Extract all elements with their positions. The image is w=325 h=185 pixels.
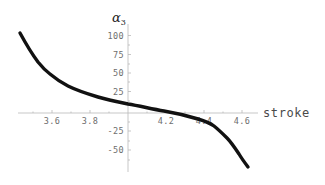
y-axis-symbol: α (112, 10, 121, 25)
x-tick-label-3-6: 3.6 (44, 116, 61, 126)
y-tick-label-75: 75 (113, 50, 124, 60)
x-tick-label-4-6: 4.6 (234, 116, 251, 126)
y-tick-label-neg50: -50 (107, 145, 124, 155)
plot-canvas: 3.6 3.8 4.2 4.4 4.6 100 75 50 25 -25 -50… (0, 0, 325, 185)
y-tick-label-25: 25 (113, 87, 124, 97)
alpha3-curve (20, 33, 248, 167)
y-tick-label-50: 50 (113, 68, 124, 78)
y-tick-label-100: 100 (107, 31, 124, 41)
y-axis-label: α3 (112, 10, 126, 27)
chart-svg: 3.6 3.8 4.2 4.4 4.6 100 75 50 25 -25 -50… (0, 0, 325, 185)
y-tick-label-neg25: -25 (107, 126, 124, 136)
x-tick-label-3-8: 3.8 (82, 116, 99, 126)
x-axis-label: stroke (263, 106, 310, 120)
x-tick-label-4-2: 4.2 (158, 116, 175, 126)
y-axis-subscript: 3 (121, 18, 126, 27)
